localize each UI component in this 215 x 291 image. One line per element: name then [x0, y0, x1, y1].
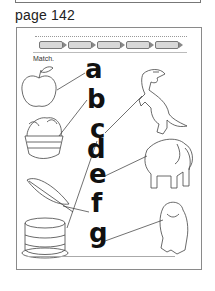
elephant-icon [145, 139, 193, 188]
letter-a: a [85, 56, 103, 82]
cake-icon [22, 218, 68, 258]
dinosaur-icon [139, 70, 187, 135]
page-number-label: page 142 [15, 7, 75, 23]
gorilla-icon [160, 202, 188, 254]
previous-page-frame [15, 0, 201, 3]
match-lines [57, 73, 163, 241]
apple-icon [22, 67, 56, 107]
basket-icon [25, 118, 63, 159]
letter-g: g [89, 220, 108, 246]
letter-b: b [87, 86, 106, 112]
worksheet-illustrations [17, 28, 203, 271]
divider [27, 256, 175, 257]
letter-e: e [89, 161, 107, 187]
worksheet-page: Match. [16, 27, 202, 270]
letter-f: f [91, 190, 102, 216]
